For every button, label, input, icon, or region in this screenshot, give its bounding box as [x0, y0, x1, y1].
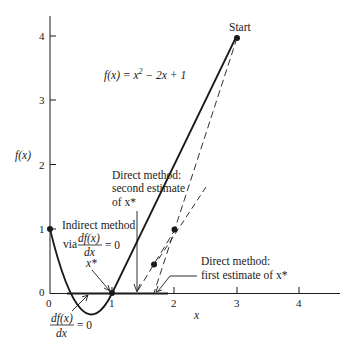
x-axis-label: x — [193, 309, 200, 321]
function-rhs: − 2x + 1 — [143, 69, 187, 81]
y-ticks — [50, 36, 56, 229]
x-tick-label-0: 0 — [46, 297, 52, 309]
derivative-frac-num: df(x) — [51, 312, 73, 325]
point-first-estimate — [151, 262, 157, 268]
y-tick-label-3: 3 — [39, 94, 45, 106]
y-axis-label: f(x) — [15, 149, 31, 162]
x-star-arrow — [92, 270, 109, 290]
second-estimate-line2: second estimate — [112, 182, 185, 194]
x-tick-label-2: 2 — [171, 297, 177, 309]
second-estimate-line3: of x* — [112, 196, 136, 208]
indirect-method-line1: Indirect method — [62, 219, 135, 231]
y-tick-label-2: 2 — [39, 159, 45, 171]
function-lhs: f(x) = x — [104, 69, 139, 82]
indirect-via: via — [63, 238, 77, 250]
y-tick-label-4: 4 — [39, 30, 45, 42]
second-estimate-dashed-line — [137, 228, 176, 292]
indirect-eq: = 0 — [105, 239, 120, 251]
x-star-label: x* — [85, 257, 97, 269]
function-label: f(x) = x2 − 2x + 1 — [104, 67, 186, 82]
start-label: Start — [229, 21, 252, 33]
x-tick-label-3: 3 — [234, 297, 240, 309]
optimization-diagram: 4 3 2 1 0 0 1 2 3 4 f(x) x f(x) = x2 − 2… — [0, 0, 357, 351]
first-estimate-line2: first estimate of x* — [201, 269, 288, 281]
y-tick-label-0: 0 — [39, 286, 45, 298]
tangent-dashed-line — [154, 187, 206, 266]
indirect-frac-num: df(x) — [78, 232, 100, 245]
x-ticks — [112, 287, 299, 293]
first-estimate-leader — [158, 276, 197, 291]
figure-root: 4 3 2 1 0 0 1 2 3 4 f(x) x f(x) = x2 − 2… — [0, 0, 357, 351]
start-point — [234, 35, 240, 41]
point-x2 — [172, 227, 178, 233]
second-estimate-line1: Direct method: — [112, 169, 181, 181]
derivative-eq: = 0 — [77, 319, 92, 331]
y-tick-label-1: 1 — [39, 223, 45, 235]
first-estimate-line1: Direct method: — [201, 255, 270, 267]
x-tick-label-4: 4 — [296, 297, 302, 309]
derivative-frac-den: dx — [56, 327, 68, 339]
point-y-intercept — [47, 226, 53, 232]
